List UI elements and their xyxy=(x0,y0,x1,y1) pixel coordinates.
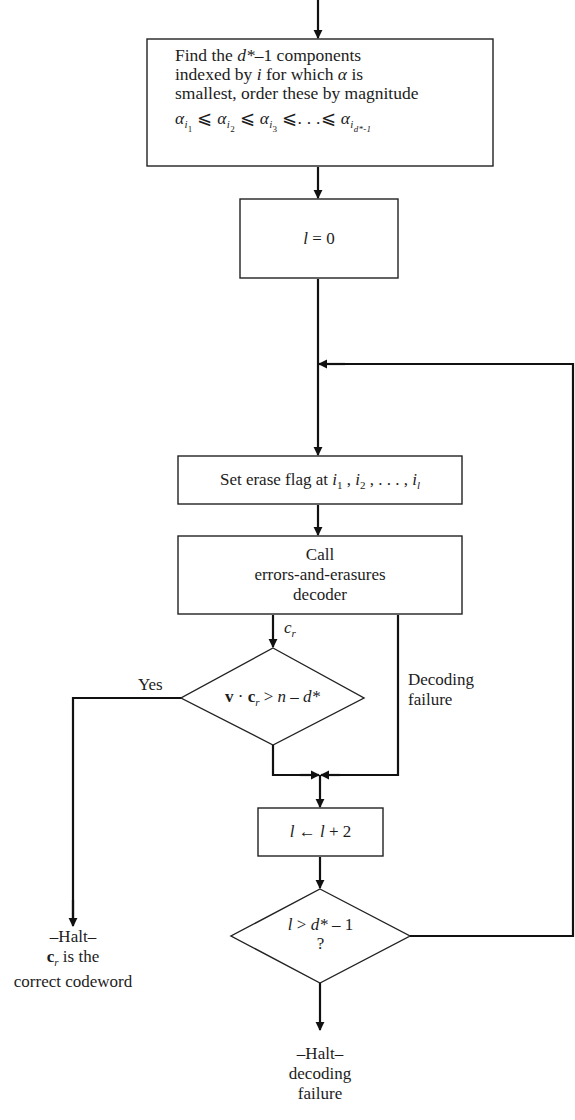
increment-node: l ← l + 2 xyxy=(258,822,383,842)
alpha-ordering: αi1 ⩽ αi2 ⩽ αi3 ⩽. . .⩽ αid*-1 xyxy=(175,109,418,139)
decoder-node: Call errors-and-erasures decoder xyxy=(178,545,462,605)
halt-success-node: –Halt– cr is the correct codeword xyxy=(0,927,146,992)
decoding-failure-label: Decoding failure xyxy=(408,670,474,710)
find-line-2: indexed by i for which α is xyxy=(175,65,418,84)
decoder-output-label: cr xyxy=(284,618,296,643)
yes-label: Yes xyxy=(138,675,163,695)
init-node: l = 0 xyxy=(240,229,398,249)
set-erase-node: Set erase flag at i1 , i2 , . . . , il xyxy=(178,470,462,495)
find-line-1: Find the d*–1 components xyxy=(175,46,418,65)
halt-failure-node: –Halt– decoding failure xyxy=(260,1044,380,1104)
check-codeword-node: v · cr > n – d* xyxy=(181,687,364,712)
find-line-3: smallest, order these by magnitude xyxy=(175,84,418,103)
check-limit-node: l > d* – 1 ? xyxy=(231,915,410,953)
find-components-node: Find the d*–1 components indexed by i fo… xyxy=(175,46,418,139)
